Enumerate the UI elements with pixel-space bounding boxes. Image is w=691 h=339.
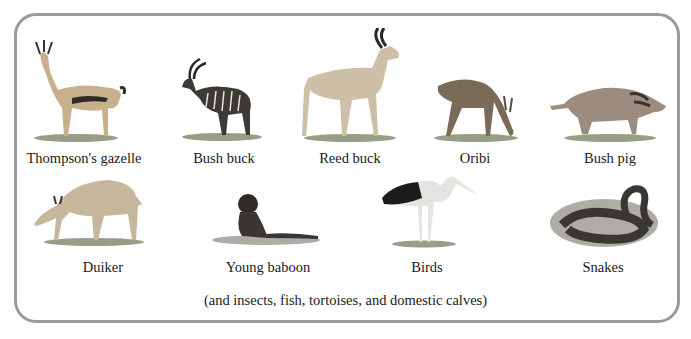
reedbuck-illustration xyxy=(298,28,406,142)
stork-illustration xyxy=(378,172,482,248)
animal-label: Reed buck xyxy=(319,150,381,167)
animal-label: Thompson's gazelle xyxy=(27,150,142,167)
animal-label: Duiker xyxy=(83,259,123,276)
bushbuck-illustration xyxy=(178,55,268,141)
snake-illustration xyxy=(548,185,662,249)
baboon-illustration xyxy=(210,192,322,246)
footnote: (and insects, fish, tortoises, and domes… xyxy=(0,292,691,309)
animal-label: Young baboon xyxy=(226,259,310,276)
bushpig-illustration xyxy=(548,82,668,142)
animal-label: Bush buck xyxy=(193,150,255,167)
gazelle-illustration xyxy=(28,38,128,142)
animal-label: Bush pig xyxy=(584,150,636,167)
animal-label: Oribi xyxy=(460,150,491,167)
animal-label: Snakes xyxy=(582,259,623,276)
oribi-illustration xyxy=(432,72,522,142)
duiker-illustration xyxy=(32,176,150,246)
animal-label: Birds xyxy=(411,259,442,276)
